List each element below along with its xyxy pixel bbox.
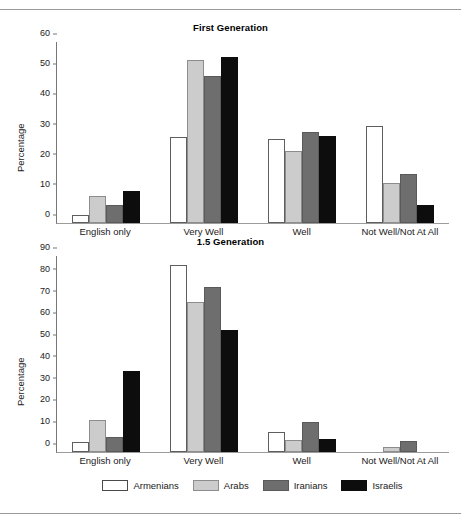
bar-armenians xyxy=(170,137,187,223)
bar-iranians xyxy=(204,287,221,453)
chart-title: 1.5 Generation xyxy=(0,236,461,247)
y-axis-tick: 60 xyxy=(40,29,57,38)
bar-iranians xyxy=(106,205,123,223)
legend-label: Arabs xyxy=(224,480,249,491)
bar-groups xyxy=(57,42,449,223)
legend-label: Iranians xyxy=(294,480,328,491)
y-axis-tick: 0 xyxy=(45,210,57,219)
legend-swatch-armenians xyxy=(102,480,128,491)
legend-item: Iranians xyxy=(263,480,328,491)
bar-group xyxy=(155,256,253,452)
legend: ArmeniansArabsIraniansIsraelis xyxy=(56,480,449,491)
chart-1-5-generation: 1.5 Generation Percentage 01020304050607… xyxy=(0,236,461,436)
bar-armenians xyxy=(72,215,89,223)
legend-item: Israelis xyxy=(341,480,402,491)
bar-group xyxy=(253,42,351,223)
x-axis-tick: Not Well/Not At All xyxy=(351,455,449,466)
bar-iranians xyxy=(400,174,417,223)
bar-arabs xyxy=(187,302,204,452)
bar-israelis xyxy=(221,57,238,223)
y-axis-tick: 10 xyxy=(40,417,57,426)
y-axis-tick: 20 xyxy=(40,149,57,158)
bar-arabs xyxy=(89,420,106,452)
x-axis-tick: English only xyxy=(56,455,154,466)
y-axis-label: Percentage xyxy=(15,123,26,172)
bar-iranians xyxy=(400,441,417,452)
bar-armenians xyxy=(268,139,285,223)
bar-israelis xyxy=(123,191,140,223)
y-axis-tick: 30 xyxy=(40,373,57,382)
bar-group xyxy=(57,42,155,223)
plot-area: 0102030405060708090 xyxy=(56,256,449,453)
bar-iranians xyxy=(302,422,319,452)
y-axis-tick: 60 xyxy=(40,308,57,317)
bar-arabs xyxy=(285,151,302,223)
chart-title: First Generation xyxy=(0,22,461,33)
y-axis-label: Percentage xyxy=(15,357,26,406)
x-axis-ticks: English onlyVery WellWellNot Well/Not At… xyxy=(56,455,449,466)
bar-arabs xyxy=(187,60,204,224)
bar-iranians xyxy=(204,76,221,223)
legend-label: Israelis xyxy=(372,480,402,491)
legend-swatch-israelis xyxy=(341,480,367,491)
bar-iranians xyxy=(106,437,123,452)
bar-group xyxy=(253,256,351,452)
bar-armenians xyxy=(170,265,187,453)
top-rule xyxy=(0,9,461,10)
y-axis-tick: 40 xyxy=(40,351,57,360)
bar-israelis xyxy=(123,371,140,452)
bar-arabs xyxy=(383,447,400,452)
bar-group xyxy=(57,256,155,452)
chart-first-generation: First Generation Percentage 010203040506… xyxy=(0,22,461,217)
figure-page: First Generation Percentage 010203040506… xyxy=(0,0,461,523)
y-axis-tick: 50 xyxy=(40,59,57,68)
bar-arabs xyxy=(285,440,302,452)
y-axis-tick: 20 xyxy=(40,395,57,404)
legend-swatch-iranians xyxy=(263,480,289,491)
legend-item: Armenians xyxy=(102,480,178,491)
bar-group xyxy=(351,42,449,223)
y-axis-tick: 90 xyxy=(40,243,57,252)
x-axis-tick: Very Well xyxy=(154,455,252,466)
legend-item: Arabs xyxy=(193,480,249,491)
legend-label: Armenians xyxy=(133,480,178,491)
bar-armenians xyxy=(366,126,383,223)
bar-arabs xyxy=(383,183,400,223)
y-axis-tick: 50 xyxy=(40,330,57,339)
bar-group xyxy=(351,256,449,452)
bar-armenians xyxy=(268,432,285,452)
bar-group xyxy=(155,42,253,223)
bar-armenians xyxy=(72,442,89,452)
y-axis-tick: 30 xyxy=(40,119,57,128)
y-axis-tick: 0 xyxy=(45,439,57,448)
plot-area: 0102030405060 xyxy=(56,42,449,224)
bar-israelis xyxy=(319,136,336,223)
legend-swatch-arabs xyxy=(193,480,219,491)
bar-israelis xyxy=(319,439,336,452)
bottom-rule xyxy=(0,513,461,514)
bar-israelis xyxy=(221,330,238,452)
bar-israelis xyxy=(417,205,434,223)
x-axis-tick: Well xyxy=(253,455,351,466)
y-axis-tick: 80 xyxy=(40,264,57,273)
y-axis-tick: 70 xyxy=(40,286,57,295)
bar-iranians xyxy=(302,132,319,223)
bar-groups xyxy=(57,256,449,452)
y-axis-tick: 40 xyxy=(40,89,57,98)
bar-arabs xyxy=(89,196,106,223)
y-axis-tick: 10 xyxy=(40,179,57,188)
